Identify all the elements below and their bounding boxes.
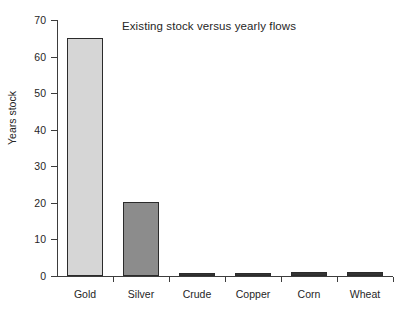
y-axis-tick-label: 10 bbox=[0, 233, 46, 245]
bar-crude bbox=[179, 273, 215, 276]
x-axis-label-silver: Silver bbox=[128, 288, 154, 300]
plot-area bbox=[57, 20, 393, 276]
x-axis-tick-mark bbox=[281, 277, 282, 282]
x-axis-label-wheat: Wheat bbox=[350, 288, 380, 300]
y-axis-tick-label: 20 bbox=[0, 197, 46, 209]
y-axis-tick-label: 60 bbox=[0, 51, 46, 63]
bar-copper bbox=[235, 273, 271, 276]
x-axis-tick-mark bbox=[225, 277, 226, 282]
y-axis-tick-label: 40 bbox=[0, 124, 46, 136]
y-axis-tick-label: 30 bbox=[0, 160, 46, 172]
bar-wheat bbox=[347, 272, 383, 276]
x-axis-tick-mark bbox=[337, 277, 338, 282]
y-axis-tick-label: 0 bbox=[0, 270, 46, 282]
bar-silver bbox=[123, 202, 159, 276]
bar-corn bbox=[291, 272, 327, 276]
x-axis-tick-mark bbox=[393, 277, 394, 282]
y-axis-tick-label: 50 bbox=[0, 87, 46, 99]
x-axis-tick-mark bbox=[113, 277, 114, 282]
x-axis-label-corn: Corn bbox=[298, 288, 321, 300]
bar-gold bbox=[67, 38, 103, 276]
bar-chart-figure: Existing stock versus yearly flows Years… bbox=[0, 0, 407, 315]
x-axis-label-gold: Gold bbox=[74, 288, 96, 300]
y-axis-tick-label: 70 bbox=[0, 14, 46, 26]
x-axis-label-copper: Copper bbox=[236, 288, 270, 300]
x-axis-tick-mark bbox=[169, 277, 170, 282]
x-axis-label-crude: Crude bbox=[183, 288, 212, 300]
